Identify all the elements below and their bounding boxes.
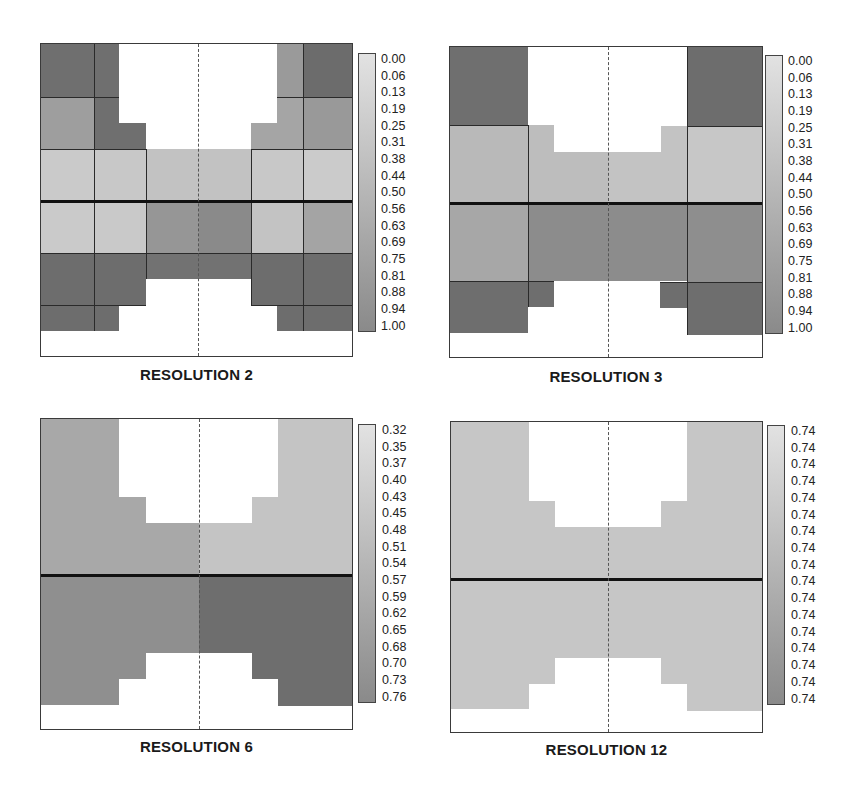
colorbar-tick: 0.00 bbox=[381, 53, 405, 66]
symmetry-centerline bbox=[198, 44, 199, 356]
colorbar-tick: 0.25 bbox=[381, 120, 405, 133]
heatmap-cell bbox=[199, 575, 353, 653]
heatmap-cell bbox=[251, 253, 353, 305]
colorbar bbox=[765, 55, 783, 334]
colorbar-tick: 1.00 bbox=[381, 320, 405, 333]
grid-line bbox=[450, 125, 528, 126]
colorbar-tick: 0.74 bbox=[791, 492, 815, 505]
midline bbox=[41, 200, 352, 203]
heatmap-cell bbox=[661, 126, 687, 203]
heatmap-cell bbox=[687, 282, 763, 335]
grid-line bbox=[41, 97, 119, 98]
colorbar-tick-labels: 0.00 0.06 0.13 0.19 0.25 0.31 0.38 0.44 … bbox=[788, 55, 812, 334]
colorbar-tick: 0.54 bbox=[382, 557, 406, 570]
colorbar-tick: 0.38 bbox=[788, 155, 812, 168]
heatmap-cell bbox=[529, 501, 555, 684]
grid-line bbox=[528, 125, 529, 307]
colorbar-tick: 0.75 bbox=[381, 253, 405, 266]
heatmap-cell bbox=[303, 201, 353, 253]
heatmap-cell bbox=[450, 125, 528, 203]
colorbar-tick: 0.56 bbox=[788, 205, 812, 218]
colorbar-tick: 0.74 bbox=[791, 642, 815, 655]
colorbar-tick: 0.74 bbox=[791, 442, 815, 455]
colorbar-tick: 0.19 bbox=[788, 105, 812, 118]
heatmap-plot-area bbox=[40, 418, 353, 730]
colorbar-tick: 0.40 bbox=[382, 474, 406, 487]
colorbar-tick: 0.94 bbox=[788, 305, 812, 318]
grid-line bbox=[41, 253, 353, 254]
grid-line bbox=[251, 149, 353, 150]
heatmap-cell bbox=[199, 201, 251, 253]
heatmap-cell bbox=[41, 44, 94, 97]
heatmap-cell bbox=[251, 123, 277, 149]
colorbar-tick: 0.74 bbox=[791, 575, 815, 588]
heatmap-cell bbox=[451, 422, 529, 709]
symmetry-centerline bbox=[199, 419, 200, 729]
midline bbox=[450, 202, 762, 205]
heatmap-cell bbox=[251, 149, 303, 201]
heatmap-cell bbox=[41, 305, 119, 331]
heatmap-cell bbox=[450, 281, 528, 333]
colorbar-tick: 0.74 bbox=[791, 659, 815, 672]
colorbar-tick: 0.48 bbox=[382, 524, 406, 537]
heatmap-cell bbox=[528, 125, 554, 203]
colorbar-tick: 0.75 bbox=[788, 255, 812, 268]
grid-line bbox=[146, 149, 147, 279]
colorbar-tick: 0.81 bbox=[788, 272, 812, 285]
grid-line bbox=[450, 281, 554, 282]
colorbar-tick: 0.74 bbox=[791, 458, 815, 471]
colorbar-tick: 0.63 bbox=[381, 220, 405, 233]
heatmap-cell bbox=[554, 152, 608, 203]
heatmap-cell bbox=[450, 203, 528, 281]
colorbar-tick: 0.73 bbox=[382, 674, 406, 687]
heatmap-cell bbox=[41, 653, 146, 679]
heatmap-cell bbox=[687, 203, 763, 282]
colorbar-tick: 0.56 bbox=[381, 203, 405, 216]
heatmap-cell bbox=[119, 123, 146, 149]
heatmap-cell bbox=[661, 501, 687, 684]
heatmap-cell bbox=[528, 281, 554, 307]
heatmap-cell bbox=[146, 523, 199, 575]
heatmap-cell bbox=[94, 44, 119, 97]
heatmap-cell bbox=[450, 47, 528, 125]
heatmap-plot-area bbox=[449, 46, 763, 358]
heatmap-cell bbox=[199, 523, 252, 575]
colorbar-tick: 0.74 bbox=[791, 525, 815, 538]
colorbar bbox=[358, 424, 376, 703]
heatmap-plot-area bbox=[450, 421, 763, 733]
heatmap-cell bbox=[608, 152, 661, 203]
heatmap-cell bbox=[660, 282, 687, 308]
colorbar-tick: 0.45 bbox=[382, 507, 406, 520]
grid-line bbox=[277, 97, 353, 98]
grid-line bbox=[251, 305, 353, 306]
heatmap-cell bbox=[303, 97, 353, 149]
heatmap-cell bbox=[687, 126, 763, 203]
colorbar-tick: 0.43 bbox=[382, 491, 406, 504]
colorbar-tick-labels: 0.32 0.35 0.37 0.40 0.43 0.45 0.48 0.51 … bbox=[382, 424, 406, 703]
colorbar-tick: 0.74 bbox=[791, 626, 815, 639]
symmetry-centerline bbox=[608, 47, 609, 357]
colorbar-tick-labels: 0.74 0.74 0.74 0.74 0.74 0.74 0.74 0.74 … bbox=[791, 425, 815, 705]
heatmap-cell bbox=[41, 575, 199, 653]
grid-line bbox=[251, 149, 252, 305]
grid-line bbox=[94, 149, 95, 331]
grid-line bbox=[687, 47, 688, 335]
colorbar-tick: 0.35 bbox=[382, 441, 406, 454]
heatmap-cell bbox=[41, 201, 94, 253]
colorbar-tick: 0.06 bbox=[381, 70, 405, 83]
colorbar-tick: 0.32 bbox=[382, 424, 406, 437]
colorbar-tick: 1.00 bbox=[788, 322, 812, 335]
colorbar-tick: 0.19 bbox=[381, 103, 405, 116]
heatmap-cell bbox=[41, 419, 119, 575]
heatmap-cell bbox=[277, 305, 353, 331]
panel-caption: RESOLUTION 2 bbox=[40, 366, 353, 383]
colorbar-tick: 0.13 bbox=[788, 88, 812, 101]
colorbar-tick: 0.74 bbox=[791, 676, 815, 689]
colorbar-tick: 0.68 bbox=[382, 641, 406, 654]
colorbar-tick: 0.06 bbox=[788, 72, 812, 85]
colorbar-tick: 0.50 bbox=[381, 186, 405, 199]
colorbar-tick: 0.74 bbox=[791, 509, 815, 522]
colorbar-tick: 0.37 bbox=[382, 457, 406, 470]
colorbar-tick: 0.76 bbox=[382, 691, 406, 704]
heatmap-cell bbox=[41, 679, 119, 705]
